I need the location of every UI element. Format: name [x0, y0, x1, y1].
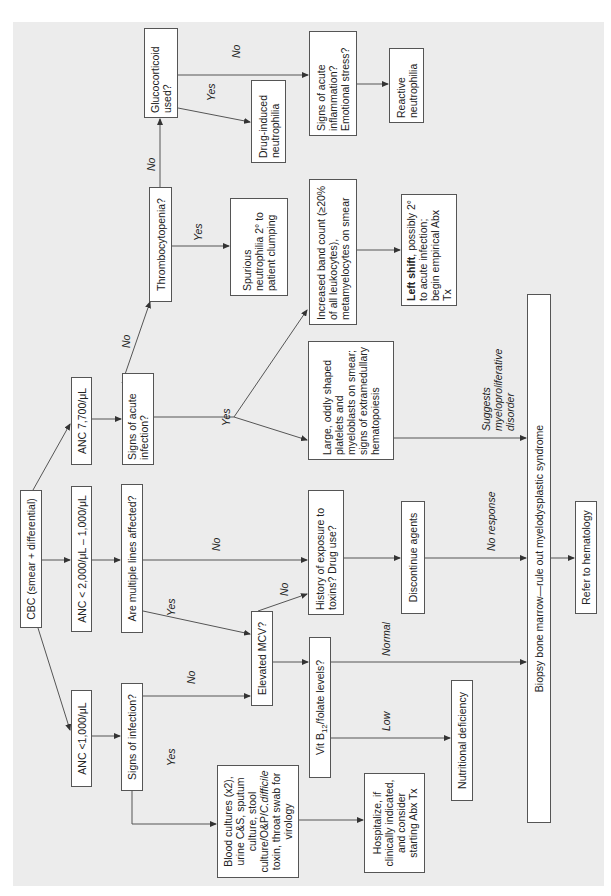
- label-suggests: Suggests myeloproliferative disorder: [480, 351, 516, 431]
- node-discontinue-text: Discontinue agents: [407, 513, 419, 602]
- node-history-exposure-text: History of exposure to toxins? Drug use?: [314, 495, 338, 610]
- node-drug-induced-text: Drug-induced neutrophilia: [257, 85, 281, 158]
- node-large-platelets: Large, oddly shaped platelets and myelob…: [308, 341, 394, 460]
- label-infection-yes: Yes: [165, 748, 177, 766]
- node-elevated-mcv-text: Elevated MCV?: [256, 622, 268, 695]
- vit-b12-sub: 12: [320, 724, 329, 733]
- node-nutritional: Nutritional deficiency: [451, 680, 473, 801]
- vit-b12-prefix: Vit B: [314, 733, 326, 755]
- node-band-count-text: Increased band count (≥20% of all leukoc…: [315, 184, 351, 320]
- node-reactive-text: Reactive neutrophilia: [395, 53, 419, 118]
- node-refer-text: Refer to hematology: [580, 510, 592, 605]
- node-cbc: CBC (smear + differential): [20, 490, 42, 628]
- label-infection-no: No: [185, 671, 197, 684]
- blood-cultures-part2: toxin, throat swab for virology: [270, 773, 294, 870]
- node-signs-infection-text: Signs of infection?: [126, 694, 138, 780]
- label-b12-low: Low: [380, 712, 392, 731]
- node-signs-acute-infection-text: Signs of acute infection?: [126, 378, 150, 460]
- label-no-response: No response: [485, 491, 497, 551]
- vit-b12-suffix: /folate levels?: [314, 660, 326, 724]
- node-anc-high: ANC 7,700/μL: [71, 377, 92, 465]
- node-left-shift: Left shift, possibly 2° to acute infecti…: [401, 194, 457, 306]
- node-signs-inflammation: Signs of acute inflammation? Emotional s…: [309, 31, 357, 136]
- node-spurious-text: Spurious neutrophilia 2° to patient clum…: [241, 203, 277, 291]
- node-large-platelets-text: Large, oddly shaped platelets and myelob…: [321, 346, 381, 455]
- left-shift-bold: Left shift: [405, 257, 417, 301]
- node-biopsy: Biopsy bone marrow—rule out myelodysplas…: [527, 294, 551, 823]
- node-nutritional-text: Nutritional deficiency: [456, 692, 468, 789]
- node-cbc-text: CBC (smear + differential): [25, 498, 37, 619]
- node-vit-b12-text: Vit B12/folate levels?: [314, 660, 326, 755]
- node-thrombocytopenia-text: Thrombocytopenia?: [155, 198, 167, 291]
- node-history-exposure: History of exposure to toxins? Drug use?: [308, 490, 344, 615]
- node-anc-low-text: ANC <1,000/μL: [76, 702, 88, 774]
- node-reactive: Reactive neutrophilia: [389, 48, 424, 123]
- node-blood-cultures-text: Blood cultures (x2), urine C&S, sputum c…: [222, 770, 294, 873]
- node-multiple-lines-text: Are multiple lines affected?: [126, 496, 138, 622]
- label-b12-normal: Normal: [380, 622, 392, 656]
- label-acute-no: No: [120, 335, 132, 348]
- node-left-shift-text: Left shift, possibly 2° to acute infecti…: [405, 199, 453, 301]
- node-anc-low: ANC <1,000/μL: [71, 690, 92, 787]
- node-signs-acute-infection: Signs of acute infection?: [122, 373, 154, 465]
- node-vit-b12: Vit B12/folate levels?: [309, 637, 331, 778]
- node-anc-high-text: ANC 7,700/μL: [76, 388, 88, 454]
- node-hospitalize: Hospitalize, if clinically indicated, an…: [364, 773, 425, 873]
- node-anc-mid: ANC < 2,000/μL – 1,000/μL: [71, 486, 92, 632]
- label-mcv-no: No: [278, 583, 290, 596]
- node-discontinue: Discontinue agents: [401, 501, 425, 614]
- node-spurious: Spurious neutrophilia 2° to patient clum…: [230, 198, 288, 296]
- blood-cultures-italic: C.difficile: [258, 770, 270, 813]
- node-blood-cultures: Blood cultures (x2), urine C&S, sputum c…: [217, 765, 299, 878]
- node-biopsy-text: Biopsy bone marrow—rule out myelodysplas…: [533, 425, 545, 692]
- label-gluco-no: No: [230, 45, 242, 58]
- node-drug-induced: Drug-induced neutrophilia: [251, 80, 286, 163]
- label-acute-yes: Yes: [220, 408, 232, 426]
- node-glucocorticoid-text: Glucocorticoid used?: [149, 33, 173, 113]
- node-hospitalize-text: Hospitalize, if clinically indicated, an…: [371, 778, 419, 868]
- label-thrombo-no: No: [145, 158, 157, 171]
- node-anc-mid-text: ANC < 2,000/μL – 1,000/μL: [76, 495, 88, 623]
- label-multiple-no: No: [210, 538, 222, 551]
- node-glucocorticoid: Glucocorticoid used?: [144, 28, 178, 118]
- label-gluco-yes: Yes: [205, 83, 217, 101]
- node-signs-inflammation-text: Signs of acute inflammation? Emotional s…: [315, 36, 351, 131]
- label-multiple-yes: Yes: [165, 598, 177, 616]
- flowchart-stage: CBC (smear + differential) ANC <1,000/μL…: [0, 0, 611, 896]
- node-thrombocytopenia: Thrombocytopenia?: [149, 187, 172, 302]
- node-elevated-mcv: Elevated MCV?: [251, 611, 273, 706]
- node-band-count: Increased band count (≥20% of all leukoc…: [309, 179, 357, 325]
- label-thrombo-yes: Yes: [192, 223, 204, 241]
- node-refer: Refer to hematology: [575, 501, 597, 614]
- node-signs-infection: Signs of infection?: [121, 683, 143, 791]
- node-multiple-lines: Are multiple lines affected?: [121, 484, 143, 633]
